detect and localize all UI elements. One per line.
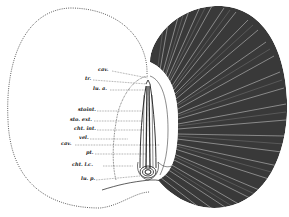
label-cht-int: cht. int. bbox=[74, 125, 96, 131]
label-vel: vel. bbox=[79, 134, 89, 140]
label-pt: pt. bbox=[86, 149, 94, 155]
label-stoint: stoint. bbox=[78, 106, 96, 112]
label-cht-lc: cht. l.c. bbox=[72, 161, 93, 167]
label-sto-ext: sto. ext. bbox=[70, 116, 92, 122]
label-cav-top: cav. bbox=[98, 66, 108, 72]
central-organ bbox=[140, 80, 156, 168]
label-lu-p: lu. p. bbox=[81, 175, 95, 181]
label-lu-a: lu. a. bbox=[93, 85, 107, 91]
label-tr: tr. bbox=[85, 75, 91, 81]
anatomical-diagram bbox=[0, 0, 289, 217]
radiating-lamellae bbox=[150, 6, 287, 210]
mantle-cavity-edge bbox=[113, 76, 148, 180]
label-cav-mid: cav. bbox=[61, 140, 71, 146]
